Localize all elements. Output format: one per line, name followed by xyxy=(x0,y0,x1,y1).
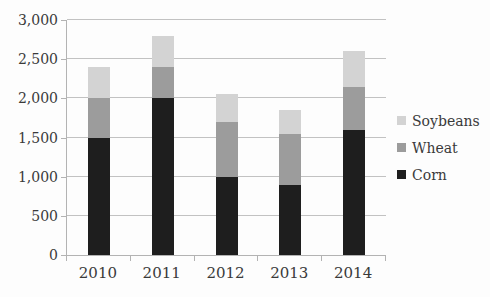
x-axis-tick xyxy=(257,256,258,261)
plot-area xyxy=(66,20,386,256)
bar-segment-wheat-2010 xyxy=(88,98,110,137)
x-axis-tick xyxy=(194,256,195,261)
legend-item-corn: Corn xyxy=(397,161,480,188)
x-axis-tick-label: 2012 xyxy=(206,266,244,281)
legend-item-wheat: Wheat xyxy=(397,134,480,161)
bar-segment-wheat-2012 xyxy=(216,122,238,177)
legend-label: Wheat xyxy=(412,141,458,155)
legend-swatch-icon xyxy=(397,143,406,152)
y-axis-tick xyxy=(61,177,66,178)
y-axis-tick-label: 0 xyxy=(49,248,58,262)
x-axis-tick-label: 2010 xyxy=(79,266,117,281)
y-axis-tick xyxy=(61,98,66,99)
bar-segment-corn-2013 xyxy=(279,185,301,256)
bar-segment-corn-2014 xyxy=(343,130,365,255)
y-axis-labels: 05001,0001,5002,0002,5003,000 xyxy=(0,0,58,297)
y-axis-tick xyxy=(61,138,66,139)
bar-2010 xyxy=(88,67,110,255)
legend: SoybeansWheatCorn xyxy=(397,107,480,188)
y-axis-tick-label: 500 xyxy=(31,209,58,223)
bar-2013 xyxy=(279,110,301,255)
y-axis-tick-label: 3,000 xyxy=(18,13,58,27)
x-axis-tick xyxy=(321,256,322,261)
x-axis-tick-label: 2014 xyxy=(334,266,372,281)
bar-2012 xyxy=(216,94,238,255)
x-axis-tick xyxy=(130,256,131,261)
stacked-bar-chart: 05001,0001,5002,0002,5003,000 2010201120… xyxy=(0,0,490,297)
gridline xyxy=(67,19,386,20)
y-axis-tick xyxy=(61,216,66,217)
bar-segment-corn-2012 xyxy=(216,177,238,255)
gridline xyxy=(67,58,386,59)
y-axis-tick-label: 1,500 xyxy=(18,131,58,145)
bar-segment-soybeans-2011 xyxy=(152,36,174,67)
bar-segment-soybeans-2014 xyxy=(343,51,365,86)
y-axis-tick-label: 2,500 xyxy=(18,52,58,66)
bar-segment-soybeans-2013 xyxy=(279,110,301,134)
x-axis-tick xyxy=(66,256,67,261)
bar-2014 xyxy=(343,51,365,255)
x-axis-tick-label: 2013 xyxy=(270,266,308,281)
legend-label: Soybeans xyxy=(412,114,480,128)
y-axis-tick xyxy=(61,20,66,21)
bar-segment-soybeans-2012 xyxy=(216,94,238,121)
bar-segment-soybeans-2010 xyxy=(88,67,110,98)
legend-swatch-icon xyxy=(397,116,406,125)
bar-segment-wheat-2013 xyxy=(279,134,301,185)
y-axis-tick-label: 1,000 xyxy=(18,170,58,184)
bar-segment-wheat-2011 xyxy=(152,67,174,98)
legend-swatch-icon xyxy=(397,170,406,179)
bar-segment-wheat-2014 xyxy=(343,87,365,130)
bar-2011 xyxy=(152,36,174,255)
bar-segment-corn-2010 xyxy=(88,138,110,256)
y-axis-tick-label: 2,000 xyxy=(18,91,58,105)
x-axis-tick-label: 2011 xyxy=(143,266,181,281)
x-axis-labels: 20102011201220132014 xyxy=(0,266,490,286)
legend-item-soybeans: Soybeans xyxy=(397,107,480,134)
x-axis-tick xyxy=(385,256,386,261)
y-axis-tick xyxy=(61,59,66,60)
bar-segment-corn-2011 xyxy=(152,98,174,255)
legend-label: Corn xyxy=(412,168,447,182)
